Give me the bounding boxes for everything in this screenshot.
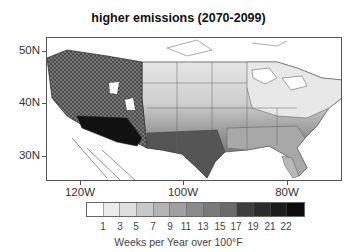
y-label-40n: 40N xyxy=(4,96,40,108)
colorbar-segment xyxy=(237,203,254,216)
map-title: higher emissions (2070-2099) xyxy=(0,11,357,25)
colorbar-segment xyxy=(137,203,154,216)
colorbar-tick: 1 xyxy=(100,221,106,232)
colorbar-segment xyxy=(204,203,221,216)
x-tick xyxy=(80,181,81,185)
colorbar-tick: 17 xyxy=(230,221,241,232)
colorbar-tick: 22 xyxy=(280,221,291,232)
colorbar-tick: 7 xyxy=(150,221,156,232)
colorbar-segment xyxy=(287,203,304,216)
colorbar-tick: 5 xyxy=(133,221,139,232)
x-label-120w: 120W xyxy=(55,186,105,198)
colorbar-tick: 11 xyxy=(181,221,191,232)
colorbar-segment xyxy=(104,203,121,216)
colorbar-tick: 15 xyxy=(214,221,225,232)
y-label-50n: 50N xyxy=(4,44,40,56)
colorbar-segment xyxy=(154,203,171,216)
colorbar-tick: 9 xyxy=(167,221,173,232)
x-label-80w: 80W xyxy=(262,186,312,198)
colorbar-tick: 3 xyxy=(117,221,123,232)
colorbar-segment xyxy=(120,203,137,216)
colorbar-segment xyxy=(170,203,187,216)
x-tick xyxy=(183,181,184,185)
x-tick xyxy=(287,181,288,185)
colorbar-tick: 21 xyxy=(264,221,275,232)
colorbar-segment xyxy=(87,203,104,216)
colorbar-segment xyxy=(221,203,238,216)
colorbar-unit-label: Weeks per Year over 100°F xyxy=(0,236,357,248)
colorbar-tick-labels: 1 3 5 7 9 11 13 15 17 19 21 22 xyxy=(86,221,302,233)
us-heat-map xyxy=(47,38,342,181)
colorbar-segment xyxy=(187,203,204,216)
colorbar xyxy=(86,202,305,217)
colorbar-tick: 19 xyxy=(247,221,258,232)
y-label-30n: 30N xyxy=(4,149,40,161)
colorbar-segment xyxy=(271,203,288,216)
colorbar-segment xyxy=(254,203,271,216)
map-plot-area xyxy=(46,37,342,181)
colorbar-tick: 13 xyxy=(197,221,208,232)
x-label-100w: 100W xyxy=(158,186,208,198)
